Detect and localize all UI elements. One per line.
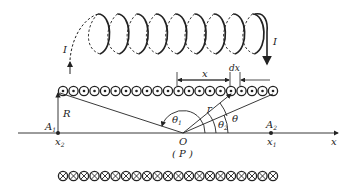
cross-section-bottom-row xyxy=(58,171,277,180)
point-a1-label: A1 xyxy=(44,121,56,133)
wire-out-of-page xyxy=(121,86,130,95)
coil-lead-in xyxy=(70,14,98,60)
current-out-label: I xyxy=(272,36,278,47)
wire-out-of-page xyxy=(69,86,78,95)
wire-out-of-page xyxy=(132,86,141,95)
wire-into-page xyxy=(216,171,225,180)
point-a2-label: A2 xyxy=(265,119,277,131)
point-a1 xyxy=(56,131,60,135)
coil-loop xyxy=(127,14,148,54)
geometry-lines xyxy=(58,93,273,133)
coil-loop xyxy=(166,14,187,54)
wire-out-of-page xyxy=(195,86,204,95)
wire-out-of-page xyxy=(216,86,225,95)
radius-label: R xyxy=(62,108,71,119)
cross-section-top-row xyxy=(58,86,277,95)
solenoid-diagram: I I x dx x R r θ1 θ2 θ A1 A2 x2 x1 O ( P xyxy=(0,0,351,183)
wire-into-page xyxy=(79,171,88,180)
coil-loop xyxy=(185,14,206,54)
element-dx-label: dx xyxy=(229,63,240,73)
wire-out-of-page xyxy=(184,86,193,95)
wire-into-page xyxy=(247,171,256,180)
wire-out-of-page xyxy=(79,86,88,95)
line-to-left-end xyxy=(60,93,183,133)
distance-x-label: x xyxy=(202,68,208,79)
wire-into-page xyxy=(142,171,151,180)
theta1-label: θ1 xyxy=(172,114,182,126)
wire-into-page xyxy=(121,171,130,180)
wire-into-page xyxy=(205,171,214,180)
wire-out-of-page xyxy=(100,86,109,95)
wire-into-page xyxy=(195,171,204,180)
wire-out-of-page xyxy=(258,86,267,95)
wire-into-page xyxy=(58,171,67,180)
theta-label: θ xyxy=(232,113,238,124)
coord-x2-label: x2 xyxy=(55,136,65,148)
coil-loop xyxy=(224,14,245,54)
wire-out-of-page xyxy=(153,86,162,95)
origin-alias-label: ( P ) xyxy=(172,148,193,159)
x-axis-label: x xyxy=(331,136,337,147)
wire-into-page xyxy=(184,171,193,180)
wire-out-of-page xyxy=(142,86,151,95)
wire-into-page xyxy=(237,171,246,180)
r-arc xyxy=(220,103,227,116)
wire-out-of-page xyxy=(174,86,183,95)
wire-into-page xyxy=(174,171,183,180)
wire-into-page xyxy=(258,171,267,180)
origin-label: O xyxy=(179,136,187,147)
wire-into-page xyxy=(111,171,120,180)
theta1-arc xyxy=(162,111,205,133)
coil-loop xyxy=(108,14,129,54)
distance-r-label: r xyxy=(207,103,213,114)
wire-into-page xyxy=(268,171,277,180)
coil-loop xyxy=(204,14,225,54)
current-in-label: I xyxy=(62,44,68,55)
dimension-lines xyxy=(177,72,270,86)
wire-into-page xyxy=(132,171,141,180)
coord-x1-label: x1 xyxy=(267,136,276,148)
wire-into-page xyxy=(69,171,78,180)
wire-into-page xyxy=(90,171,99,180)
wire-into-page xyxy=(153,171,162,180)
wire-out-of-page xyxy=(111,86,120,95)
wire-into-page xyxy=(163,171,172,180)
wire-out-of-page xyxy=(247,86,256,95)
wire-into-page xyxy=(100,171,109,180)
coil-loop xyxy=(146,14,167,54)
wire-out-of-page xyxy=(90,86,99,95)
coil-loop xyxy=(88,14,109,54)
point-a2 xyxy=(269,131,273,135)
wire-out-of-page xyxy=(163,86,172,95)
coil-loop xyxy=(243,14,264,54)
wire-into-page xyxy=(226,171,235,180)
wire-out-of-page xyxy=(237,86,246,95)
wire-out-of-page xyxy=(205,86,214,95)
